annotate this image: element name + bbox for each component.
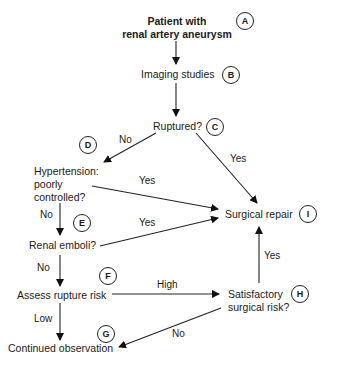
node-f-label: Assess rupture risk [17,289,106,302]
node-h-line1: Satisfactory [228,288,289,301]
edge-label-d-e: No [40,209,53,221]
node-d-line3: controlled? [34,191,99,204]
node-d-badge: D [79,136,97,154]
edge-label-e-i: Yes [139,217,155,229]
edge-h-g [119,308,221,347]
node-h-label: Satisfactory surgical risk? [228,288,289,314]
node-g-badge: G [97,325,115,343]
edge-label-h-g: No [172,328,185,340]
edge-label-f-h: High [157,279,178,291]
node-a-label: Patient with renal artery aneurysm [118,15,236,41]
node-b-badge: B [222,66,240,84]
edge-label-f-g: Low [34,313,52,325]
node-i-label: Surgical repair [225,208,293,221]
node-d-label: Hypertension: poorly controlled? [34,165,99,204]
edge-label-d-i: Yes [139,175,155,187]
node-c-label: Ruptured? [153,120,202,133]
edge-label-h-i: Yes [264,250,280,262]
node-a-line1: Patient with [118,15,236,28]
edge-d-i [92,186,218,209]
edge-label-c-i: Yes [230,153,246,165]
edge-c-i [196,133,257,203]
node-h-line2: surgical risk? [228,301,289,314]
node-i-badge: I [299,205,317,223]
node-c-badge: C [206,118,224,136]
node-e-label: Renal emboli? [29,239,96,252]
edge-label-c-d: No [119,134,132,146]
node-b-label: Imaging studies [141,68,215,81]
node-d-line1: Hypertension: [34,165,99,178]
node-g-label: Continued observation [8,342,113,355]
edge-e-i [100,218,218,246]
node-a-badge: A [236,12,254,30]
node-a-line2: renal artery aneurysm [118,28,236,41]
node-h-badge: H [291,285,309,303]
node-d-line2: poorly [34,178,99,191]
edge-label-e-f: No [37,262,50,274]
node-f-badge: F [99,267,117,285]
node-e-badge: E [73,214,91,232]
